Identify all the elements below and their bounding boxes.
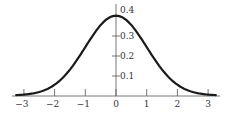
y-tick-label: 0.1 [120,71,134,81]
x-tick-label: −3 [15,99,29,109]
y-tick-label: 0.4 [120,5,135,15]
x-axis-ticks: −3−2−10123 [15,89,211,109]
x-tick-label: −2 [46,99,59,109]
y-tick-label: 0.3 [120,31,135,41]
x-tick-label: −1 [77,99,90,109]
x-tick-label: 3 [205,99,211,109]
x-tick-label: 2 [175,99,181,109]
x-tick-label: 1 [144,99,150,109]
x-tick-label: 0 [113,99,119,109]
y-tick-label: 0.2 [120,51,134,61]
normal-distribution-chart: −3−2−10123 0.10.20.30.4 [0,0,228,113]
